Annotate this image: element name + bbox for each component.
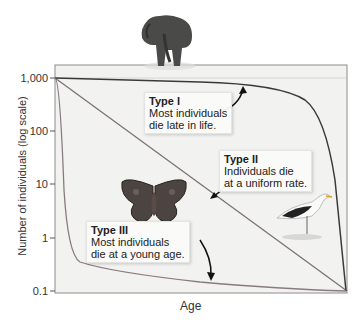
type1-callout: Type I Most individuals die late in life… (144, 92, 232, 134)
type3-callout: Type III Most individuals die at a young… (86, 221, 190, 263)
y-tick-1000: 1,000 (8, 72, 48, 84)
type2-title: Type II (224, 153, 307, 165)
y-axis-label: Number of individuals (log scale) (16, 96, 28, 256)
type3-line1: Most individuals (91, 236, 185, 248)
elephant-icon (142, 15, 196, 70)
type3-title: Type III (91, 224, 185, 236)
y-tick-1: 1 (8, 232, 48, 244)
y-tick-0-1: 0.1 (8, 285, 48, 297)
type3-line2: die at a young age. (91, 248, 185, 260)
y-tick-10: 10 (8, 178, 48, 190)
type2-line1: Individuals die (224, 165, 307, 177)
y-tick-100: 100 (8, 125, 48, 137)
type2-callout: Type II Individuals die at a uniform rat… (219, 150, 312, 192)
x-axis-label: Age (180, 299, 201, 313)
type2-line2: at a uniform rate. (224, 177, 307, 189)
y-axis-ticks (50, 78, 55, 291)
type1-title: Type I (149, 95, 227, 107)
type1-line1: Most individuals (149, 107, 227, 119)
type1-line2: die late in life. (149, 119, 227, 131)
